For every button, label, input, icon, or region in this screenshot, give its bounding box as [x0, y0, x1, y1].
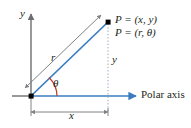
- x-dimension-label: x: [69, 110, 74, 121]
- theta-label: θ: [53, 78, 58, 89]
- point-p-marker: [106, 20, 111, 25]
- origin-marker: [29, 94, 34, 99]
- y-axis-label: y: [20, 8, 25, 19]
- y-dimension-label: y: [112, 54, 117, 65]
- radius-ray: [31, 23, 107, 96]
- radius-label: r: [51, 52, 55, 63]
- polar-axis-label: Polar axis: [141, 89, 185, 100]
- figure-canvas: [0, 0, 191, 128]
- point-polar-label: P = (r, θ): [115, 27, 156, 38]
- r-dimension-line: [25, 15, 101, 88]
- point-rectangular-label: P = (x, y): [115, 14, 157, 25]
- polar-coordinates-figure: y r θ x y P = (x, y) P = (r, θ) Polar ax…: [0, 0, 191, 128]
